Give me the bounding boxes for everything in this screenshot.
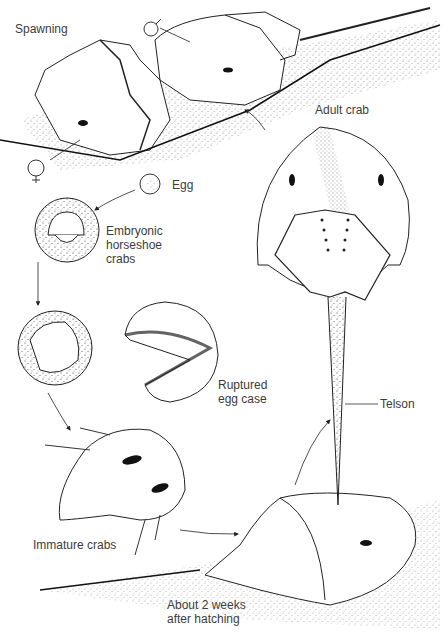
adult-crab-drawing <box>257 127 409 505</box>
hatching-embryo-drawing <box>18 311 92 385</box>
female-symbol <box>28 160 44 183</box>
embryo-drawing <box>35 198 99 262</box>
arrow-juvenile-to-adult <box>295 420 330 485</box>
immature-crab-drawing <box>45 428 185 555</box>
label-two-weeks: About 2 weeks after hatching <box>167 598 246 626</box>
arrow-egg-to-embryo <box>95 190 135 210</box>
label-adult-crab: Adult crab <box>315 103 369 117</box>
label-egg: Egg <box>172 178 193 192</box>
arrow-hatchling-to-immature <box>48 393 70 430</box>
label-telson: Telson <box>380 397 415 411</box>
egg-drawing <box>140 174 160 194</box>
label-ruptured-egg-case: Ruptured egg case <box>218 378 267 406</box>
ruptured-egg-case-drawing <box>125 302 218 402</box>
label-spawning: Spawning <box>15 22 68 36</box>
arrow-immature-to-juvenile <box>180 530 238 534</box>
male-symbol <box>144 19 161 36</box>
label-embryonic: Embryonic horseshoe crabs <box>106 224 163 266</box>
label-immature-crabs: Immature crabs <box>33 538 116 552</box>
